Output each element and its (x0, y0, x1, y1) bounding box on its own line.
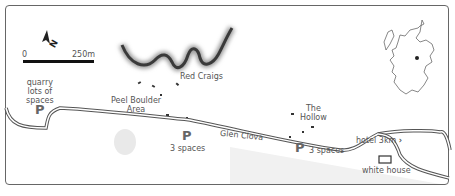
the-hollow-label: The Hollow (300, 104, 327, 122)
scale-start: 0 (22, 50, 27, 59)
shaded-patch (114, 129, 136, 155)
white-house-label: white house (362, 166, 411, 175)
location-marker-icon (415, 56, 419, 60)
hotel-label: hotel 3km › (356, 136, 402, 145)
svg-text:N: N (48, 38, 60, 50)
white-house-icon (379, 156, 391, 163)
parking-hollow-caption: 3 spaces (309, 146, 344, 155)
chevron-right-icon: › (399, 136, 402, 145)
peel-boulder-label: Peel Boulder Area (111, 96, 161, 114)
scale-bar (23, 60, 94, 63)
parking-quarry-icon: P (35, 102, 45, 117)
parking-quarry-label: quarry lots of spaces (26, 78, 54, 105)
parking-hollow-icon: P (295, 140, 305, 155)
parking-peel-caption: 3 spaces (170, 144, 205, 153)
red-craigs-cliff (122, 28, 232, 68)
scotland-inset-icon (384, 20, 434, 94)
red-craigs-label: Red Craigs (180, 72, 223, 81)
parking-peel-icon: P (182, 128, 192, 143)
scale-end: 250m (72, 50, 95, 59)
north-arrow-icon: N (42, 30, 60, 50)
